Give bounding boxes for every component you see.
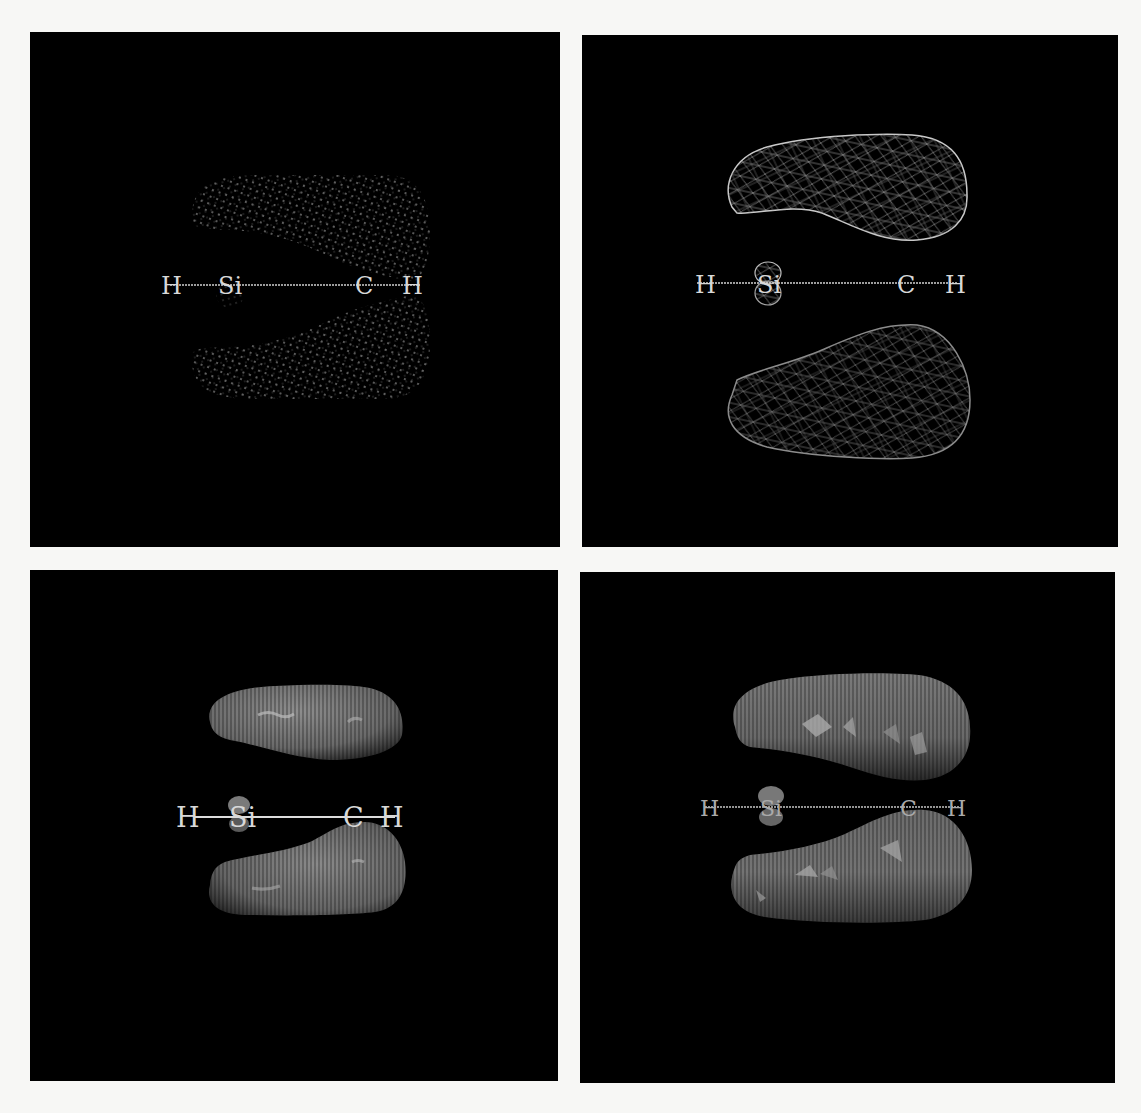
atom-label-c: C (897, 271, 915, 299)
atom-label-h1: H (176, 802, 200, 833)
orbital-solid-render: H Si C H (30, 570, 558, 1081)
atom-label-si: Si (760, 796, 782, 821)
panel-dot-surface: H Si C H (30, 32, 560, 547)
lower-lobe (209, 822, 406, 915)
orbital-dot-render: H Si C H (30, 32, 560, 547)
atom-label-si: Si (229, 802, 256, 833)
atom-label-h2: H (945, 271, 966, 299)
atom-label-h2: H (947, 796, 966, 821)
atom-label-si: Si (218, 272, 242, 300)
upper-lobe (209, 685, 402, 760)
atom-label-h2: H (380, 802, 404, 833)
atom-label-si: Si (757, 271, 781, 299)
upper-lobe (733, 673, 970, 780)
panel-smooth-solid-surface: H Si C H (30, 570, 558, 1081)
atom-label-c: C (355, 272, 373, 300)
lower-lobe (731, 810, 972, 923)
panel-wireframe-surface: H Si C H (582, 35, 1118, 547)
orbital-wireframe-render: H Si C H (582, 35, 1118, 547)
orbital-faceted-render: H Si C H (580, 572, 1115, 1083)
atom-label-c: C (343, 802, 364, 833)
atom-label-h1: H (161, 272, 182, 300)
atom-label-h2: H (402, 272, 423, 300)
atom-label-h1: H (695, 271, 716, 299)
atom-label-h1: H (700, 796, 719, 821)
atom-label-c: C (900, 796, 917, 821)
panel-faceted-solid-surface: H Si C H (580, 572, 1115, 1083)
